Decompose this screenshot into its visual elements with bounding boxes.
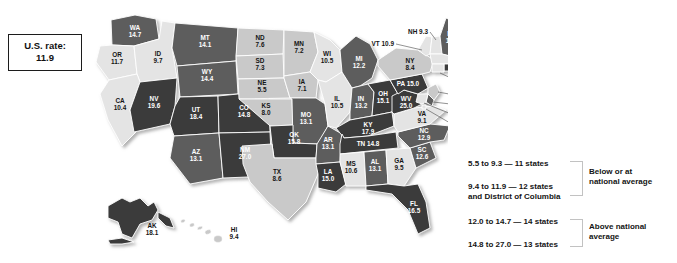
legend-swatch-q3 — [448, 216, 461, 229]
state-ND[interactable] — [236, 28, 284, 56]
legend-label-3: 12.0 to 14.7 — 14 states — [468, 216, 558, 227]
us-choropleth-map: WA14.7 OR11.7 ID9.7 MT14.1 WY14.4 CA10.4… — [78, 6, 448, 256]
state-WY[interactable] — [177, 61, 238, 97]
state-label-AK: AK18.1 — [146, 222, 159, 236]
legend-row-4: 14.8 to 27.0 — 13 states — [448, 239, 558, 252]
legend-swatch-q1 — [448, 158, 461, 171]
legend-label-2: 9.4 to 11.9 — 12 states and District of … — [468, 181, 560, 202]
legend-bracket-above — [570, 219, 583, 247]
state-MA[interactable] — [430, 54, 448, 64]
state-AZ[interactable] — [170, 133, 223, 184]
legend-row-1: 5.5 to 9.3 — 11 states — [448, 158, 549, 171]
hawaii-island-hawaii — [214, 236, 222, 243]
us-rate-value: 11.9 — [11, 52, 79, 64]
us-rate-box: U.S. rate: 11.9 — [8, 34, 82, 71]
hawaii-island-molokai — [197, 226, 203, 231]
state-label-HI: HI9.4 — [230, 226, 239, 240]
state-IA[interactable] — [284, 72, 318, 98]
legend-label-4: 14.8 to 27.0 — 13 states — [468, 239, 558, 250]
legend-row-2: 9.4 to 11.9 — 12 states and District of … — [448, 181, 560, 202]
hawaii-island-oahu — [189, 222, 195, 227]
state-AK[interactable] — [108, 198, 158, 238]
state-OR[interactable] — [96, 45, 137, 80]
state-ME[interactable] — [440, 18, 448, 56]
state-DC[interactable] — [422, 105, 426, 109]
state-AK-aleutians — [108, 238, 134, 244]
state-IN[interactable] — [350, 84, 374, 120]
leader-line-CT — [440, 73, 448, 84]
state-RI[interactable] — [444, 64, 448, 71]
hawaii-islands-group — [180, 219, 222, 243]
callout-label-NH: NH 9.3 — [408, 28, 428, 35]
state-CT[interactable] — [432, 64, 444, 72]
legend-row-3: 12.0 to 14.7 — 14 states — [448, 216, 558, 229]
state-MT[interactable] — [172, 23, 238, 66]
legend-swatch-q4 — [448, 239, 461, 252]
legend-group-label-above: Above national average — [589, 222, 646, 243]
legend-bracket-below — [570, 161, 583, 196]
state-AK-panhandle — [158, 212, 174, 228]
legend-group-label-below: Below or at national average — [589, 167, 652, 188]
state-UT[interactable] — [170, 96, 219, 136]
leader-line-DE — [433, 102, 448, 106]
state-SD[interactable] — [236, 54, 284, 79]
callout-label-VT: VT 10.9 — [372, 40, 395, 47]
state-FL[interactable] — [366, 184, 430, 234]
state-NE[interactable] — [238, 78, 290, 99]
us-rate-label: U.S. rate: — [11, 40, 79, 52]
state-shapes-group — [96, 15, 448, 244]
legend-swatch-q2 — [448, 181, 461, 194]
map-legend: 5.5 to 9.3 — 11 states 9.4 to 11.9 — 12 … — [448, 158, 673, 258]
hawaii-island-kauai — [180, 219, 186, 224]
hawaii-island-maui — [204, 229, 212, 235]
state-AL[interactable] — [364, 150, 388, 186]
legend-label-1: 5.5 to 9.3 — 11 states — [468, 158, 549, 169]
